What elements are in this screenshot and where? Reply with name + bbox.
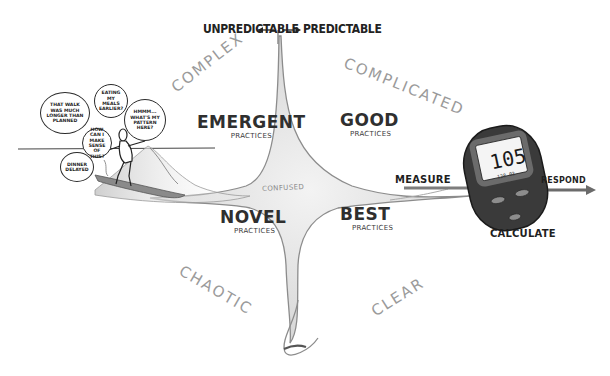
curl-shadow [284,346,306,349]
axis-label-unpredictable: UNPREDICTABLE [203,22,299,36]
thought-bubble-sense: HOW CAN I MAKE SENSE OF THIS? [82,128,112,158]
surfer-torso [119,141,132,163]
surfer-arm-right [128,141,145,146]
flow-label-respond: RESPOND [541,176,586,185]
flow-label-calculate: CALCULATE [490,228,556,239]
practice-best-title: BEST [340,204,393,224]
practice-good-sub: PRACTICES [350,130,399,138]
respond-arrow-head-icon [586,185,596,195]
thought-bubble-pattern: HMMM... WHAT'S MY PATTERN HERE? [124,99,166,141]
thought-bubble-dinner: DINNER DELAYED [60,152,94,182]
practice-novel-sub: PRACTICES [234,227,286,235]
practice-emergent: EMERGENT PRACTICES [197,112,306,140]
surfer-scene [18,129,250,203]
practice-novel: NOVEL PRACTICES [220,207,286,235]
wave-detail [104,160,108,176]
practice-good: GOOD PRACTICES [340,110,399,138]
practice-emergent-sub: PRACTICES [197,132,306,140]
flow-label-measure: MEASURE [395,174,451,185]
practice-good-title: GOOD [340,110,399,130]
practice-novel-title: NOVEL [220,207,286,227]
thought-bubble-eating: EATING MY MEALS EARLIER? [94,84,128,118]
practice-best-sub: PRACTICES [352,224,393,232]
practice-best: BEST PRACTICES [340,204,393,232]
practice-emergent-title: EMERGENT [197,112,306,132]
surfer-head [119,129,127,141]
thought-bubble-walk: THAT WALK WAS MUCH LONGER THAN PLANNED [40,92,90,134]
axis-label-predictable: PREDICTABLE [303,22,381,36]
horizon-line [18,148,215,149]
cynefin-illustration [0,0,610,376]
